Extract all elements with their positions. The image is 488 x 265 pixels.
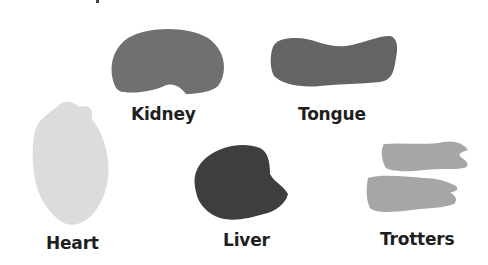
- kidney-label: Kidney: [131, 104, 196, 124]
- liver-shape: [194, 144, 294, 224]
- heart-shape: [28, 100, 118, 230]
- tongue-label: Tongue: [298, 104, 366, 124]
- partial-text-fragment: [96, 0, 99, 3]
- trotters-label: Trotters: [380, 229, 454, 249]
- tongue-shape: [270, 34, 398, 90]
- heart-label: Heart: [46, 233, 99, 253]
- trotters-shape: [364, 138, 474, 220]
- liver-label: Liver: [223, 230, 270, 250]
- kidney-shape: [108, 28, 228, 98]
